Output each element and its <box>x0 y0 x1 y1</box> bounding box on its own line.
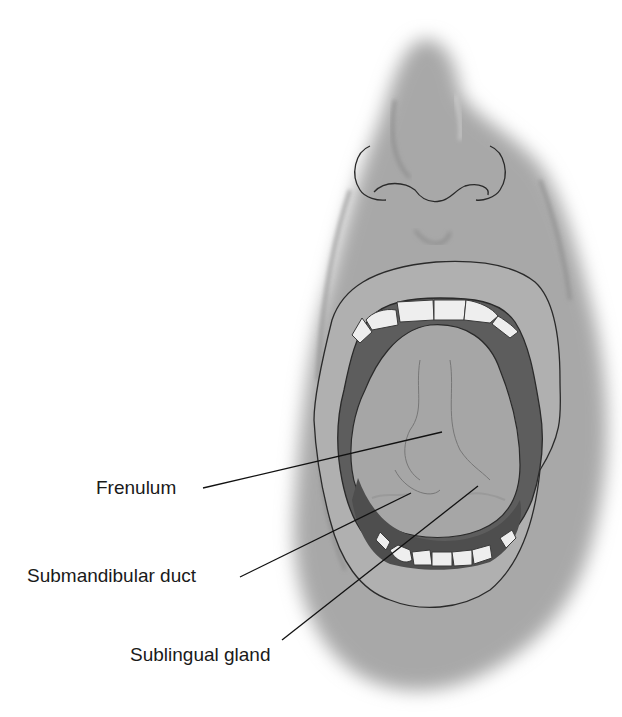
label-frenulum: Frenulum <box>96 478 176 497</box>
label-sublingual-gland: Sublingual gland <box>130 645 271 664</box>
mouth-anatomy-illustration <box>0 0 622 717</box>
label-submandibular-duct: Submandibular duct <box>27 566 196 585</box>
